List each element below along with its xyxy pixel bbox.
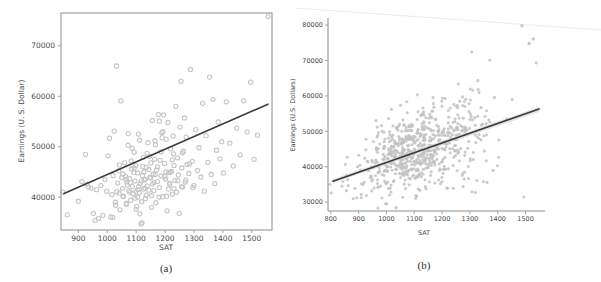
plot-area-b <box>328 18 545 211</box>
panel-a-svg: 40000500006000070000 9001000110012001300… <box>0 0 300 282</box>
svg-text:1000: 1000 <box>378 215 395 223</box>
svg-text:40000: 40000 <box>302 163 323 171</box>
svg-text:800: 800 <box>325 215 337 223</box>
y-axis-title-b: Earnings (U.S. Dollars) <box>289 78 297 151</box>
svg-text:1500: 1500 <box>242 234 261 243</box>
svg-text:1100: 1100 <box>406 215 423 223</box>
svg-text:60000: 60000 <box>31 92 55 101</box>
figure-container: 40000500006000070000 9001000110012001300… <box>0 0 601 282</box>
svg-text:1200: 1200 <box>156 234 175 243</box>
panel-caption-a: (a) <box>160 262 173 275</box>
svg-text:70000: 70000 <box>302 57 323 65</box>
svg-text:900: 900 <box>71 234 86 243</box>
panel-a: 40000500006000070000 9001000110012001300… <box>0 0 300 282</box>
y-axis-title-a: Earnings (U. S. Dollar) <box>17 80 26 163</box>
svg-text:1100: 1100 <box>127 234 146 243</box>
svg-text:1500: 1500 <box>517 215 534 223</box>
svg-text:1200: 1200 <box>434 215 451 223</box>
svg-text:900: 900 <box>352 215 364 223</box>
svg-text:1400: 1400 <box>489 215 506 223</box>
svg-text:1300: 1300 <box>462 215 479 223</box>
svg-text:50000: 50000 <box>31 142 55 151</box>
svg-text:40000: 40000 <box>31 193 55 202</box>
panel-caption-b: (b) <box>418 259 431 272</box>
x-axis-title-a: SAT <box>159 243 173 252</box>
svg-text:1300: 1300 <box>184 234 203 243</box>
panel-b: 300004000050000600007000080000 800900100… <box>300 0 601 282</box>
svg-text:1000: 1000 <box>98 234 117 243</box>
svg-text:1400: 1400 <box>213 234 232 243</box>
svg-text:50000: 50000 <box>302 128 323 136</box>
svg-text:30000: 30000 <box>302 198 323 206</box>
y-axis-ticks-a: 40000500006000070000 <box>31 41 61 201</box>
svg-text:70000: 70000 <box>31 41 55 50</box>
x-axis-ticks-a: 900100011001200130014001500 <box>71 230 261 243</box>
x-axis-title-b: SAT <box>418 229 430 237</box>
y-axis-ticks-b: 300004000050000600007000080000 <box>302 21 328 206</box>
svg-text:80000: 80000 <box>302 21 323 29</box>
panel-b-svg: 300004000050000600007000080000 800900100… <box>300 0 601 282</box>
x-axis-ticks-b: 800900100011001200130014001500 <box>325 211 534 223</box>
svg-text:60000: 60000 <box>302 92 323 100</box>
